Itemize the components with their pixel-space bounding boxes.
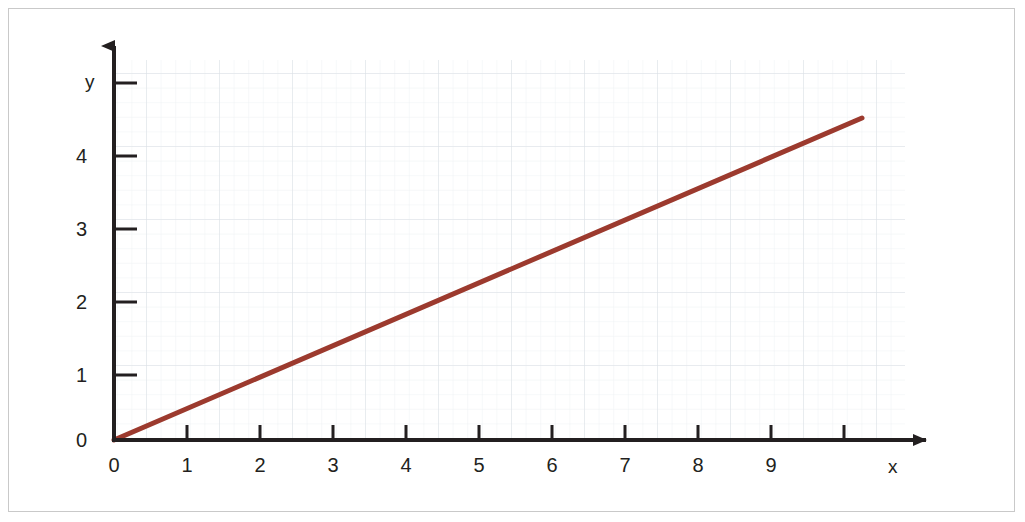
x-tick-label-0: 0 bbox=[99, 455, 129, 475]
x-tick-label-9: 9 bbox=[756, 455, 786, 475]
x-tick-label-6: 6 bbox=[537, 455, 567, 475]
y-tick-label-0: 0 bbox=[57, 430, 87, 450]
line-chart-plot bbox=[0, 0, 1025, 522]
y-tick-label-2: 2 bbox=[57, 292, 87, 312]
y-tick-label-3: 3 bbox=[57, 219, 87, 239]
y-axis-title: y bbox=[85, 72, 95, 91]
x-tick-label-5: 5 bbox=[464, 455, 494, 475]
x-tick-label-1: 1 bbox=[172, 455, 202, 475]
x-tick-label-8: 8 bbox=[683, 455, 713, 475]
chart-figure: 4 3 2 1 0 y 0 1 2 3 4 5 6 7 8 9 x bbox=[0, 0, 1025, 522]
x-tick-label-2: 2 bbox=[245, 455, 275, 475]
x-tick-label-7: 7 bbox=[610, 455, 640, 475]
y-tick-label-1: 1 bbox=[57, 365, 87, 385]
y-tick-label-4: 4 bbox=[57, 146, 87, 166]
grid bbox=[114, 60, 905, 440]
x-tick-label-3: 3 bbox=[318, 455, 348, 475]
x-axis-title: x bbox=[888, 457, 898, 476]
x-tick-label-4: 4 bbox=[391, 455, 421, 475]
